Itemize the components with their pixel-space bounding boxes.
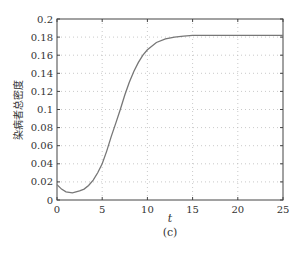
y-tick-label: 0.04	[31, 158, 53, 169]
x-tick-label: 5	[99, 204, 105, 215]
x-tick-label: 15	[186, 204, 199, 215]
y-tick-label: 0	[47, 195, 53, 206]
grid-lines	[57, 19, 283, 200]
x-axis-label: t	[168, 212, 173, 225]
y-tick-label: 0.18	[31, 32, 53, 43]
line-chart: 051015202500.020.040.060.080.10.120.140.…	[0, 0, 301, 253]
axis-ticks: 051015202500.020.040.060.080.10.120.140.…	[31, 14, 290, 216]
y-axis-label: 染病者总密度	[12, 80, 24, 140]
x-tick-label: 0	[54, 204, 60, 215]
data-line	[57, 35, 283, 193]
y-tick-label: 0.08	[31, 122, 53, 133]
y-tick-label: 0.06	[31, 140, 53, 151]
y-tick-label: 0.14	[31, 68, 53, 79]
y-tick-label: 0.02	[31, 176, 53, 187]
y-tick-label: 0.12	[31, 86, 53, 97]
figure-caption: (c)	[163, 226, 178, 239]
y-tick-label: 0.16	[31, 50, 53, 61]
x-tick-label: 20	[231, 204, 244, 215]
y-tick-label: 0.2	[37, 14, 53, 25]
x-tick-label: 25	[277, 204, 290, 215]
y-tick-label: 0.1	[37, 104, 53, 115]
x-tick-label: 10	[141, 204, 154, 215]
